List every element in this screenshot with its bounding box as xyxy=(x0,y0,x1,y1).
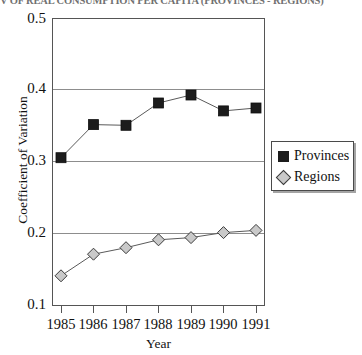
data-point-regions-1990 xyxy=(218,227,230,239)
data-point-regions-1988 xyxy=(153,234,165,246)
data-point-provinces-1988 xyxy=(154,98,164,108)
data-point-provinces-1987 xyxy=(121,120,131,130)
data-point-provinces-1990 xyxy=(219,106,229,116)
square-marker-icon xyxy=(276,149,291,164)
legend-item-regions[interactable]: Regions xyxy=(276,169,340,185)
series-regions xyxy=(55,224,262,281)
data-point-regions-1987 xyxy=(120,242,132,254)
data-point-provinces-1991 xyxy=(251,103,261,113)
data-point-regions-1986 xyxy=(88,248,100,260)
data-point-provinces-1986 xyxy=(89,120,99,130)
legend-label-provinces: Provinces xyxy=(294,149,349,163)
legend-label-regions: Regions xyxy=(294,170,340,184)
series-provinces xyxy=(56,90,261,163)
diamond-marker-icon xyxy=(276,170,291,185)
data-point-regions-1985 xyxy=(55,270,67,282)
data-point-provinces-1989 xyxy=(186,90,196,100)
data-point-provinces-1985 xyxy=(56,153,66,163)
legend: Provinces Regions xyxy=(271,141,354,191)
data-point-regions-1991 xyxy=(250,224,262,236)
data-point-regions-1989 xyxy=(185,232,197,244)
legend-item-provinces[interactable]: Provinces xyxy=(276,148,349,164)
